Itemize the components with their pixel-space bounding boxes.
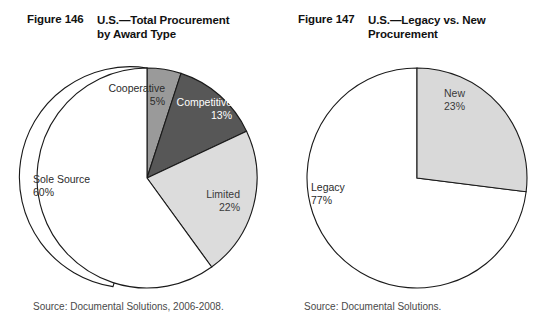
pie-147-svg — [279, 0, 558, 300]
pie-146-label-limited: Limited 22% — [158, 188, 240, 213]
pie-chart-146 — [0, 0, 279, 300]
figure-panel-147: Figure 147 U.S.—Legacy vs. New Procureme… — [279, 0, 558, 328]
pie-147-label-new: New 23% — [444, 87, 514, 112]
figure-146-source: Source: Documental Solutions, 2006-2008. — [33, 301, 224, 312]
figure-147-source: Source: Documental Solutions. — [304, 301, 441, 312]
pie-147-label-legacy: Legacy 77% — [311, 181, 401, 206]
pie-146-svg — [0, 0, 279, 300]
figures-page: Figure 146 U.S.—Total Procurement by Awa… — [0, 0, 558, 328]
pie-146-label-competitive: Competitive 13% — [150, 96, 232, 121]
pie-146-label-sole-source: Sole Source 60% — [33, 173, 143, 198]
pie-146-label-cooperative: Cooperative 5% — [55, 82, 165, 107]
pie-chart-147 — [279, 0, 558, 300]
figure-panel-146: Figure 146 U.S.—Total Procurement by Awa… — [0, 0, 279, 328]
